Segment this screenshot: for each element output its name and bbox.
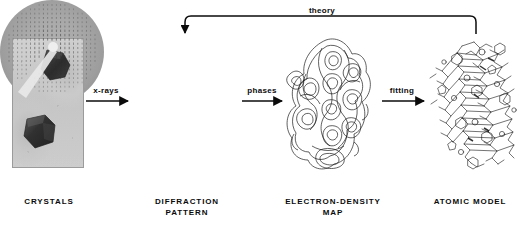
caption-electron-density-map: ELECTRON-DENSITY MAP xyxy=(280,196,386,218)
arrow-label-fitting: fitting xyxy=(380,86,424,95)
caption-diffraction-pattern: DIFFRACTION PATTERN xyxy=(140,196,234,218)
atomic-model-image xyxy=(428,34,524,174)
arrow-label-xrays: x-rays xyxy=(84,86,128,95)
figure-canvas: x-rays phases fitting theory CRYSTALS DI… xyxy=(0,0,528,234)
arrow-label-phases: phases xyxy=(240,86,284,95)
caption-crystals: CRYSTALS xyxy=(14,196,84,207)
caption-atomic-model: ATOMIC MODEL xyxy=(420,196,520,207)
arrow-label-theory: theory xyxy=(300,6,344,15)
arrow-theory-bracket xyxy=(185,16,476,34)
electron-density-map-image xyxy=(282,34,380,174)
